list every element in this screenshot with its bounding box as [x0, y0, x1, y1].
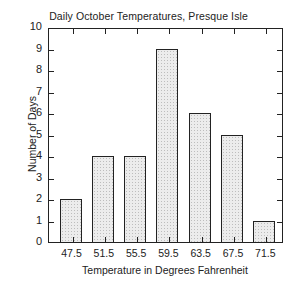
x-tick-label: 47.5: [55, 247, 89, 259]
bar: [92, 156, 114, 242]
y-tick-label: 9: [22, 42, 42, 54]
y-tick-right: [277, 222, 282, 223]
x-tick-top: [105, 29, 106, 34]
bar: [60, 199, 82, 242]
x-tick: [202, 237, 203, 242]
y-tick-label: 7: [22, 85, 42, 97]
bar: [253, 221, 275, 243]
x-tick: [137, 237, 138, 242]
x-tick-label: 51.5: [87, 247, 121, 259]
x-tick-top: [234, 29, 235, 34]
x-tick-top: [202, 29, 203, 34]
x-axis-label: Temperature in Degrees Fahrenheit: [0, 264, 297, 276]
y-tick-right: [277, 93, 282, 94]
y-tick-label: 5: [22, 128, 42, 140]
y-tick: [49, 179, 54, 180]
x-tick-label: 67.5: [216, 247, 250, 259]
y-tick-label: 6: [22, 106, 42, 118]
x-tick-label: 71.5: [248, 247, 282, 259]
x-tick-top: [266, 29, 267, 34]
x-tick: [234, 237, 235, 242]
y-tick-label: 10: [22, 20, 42, 32]
y-tick-right: [277, 114, 282, 115]
chart-title: Daily October Temperatures, Presque Isle: [0, 10, 297, 22]
y-tick: [49, 50, 54, 51]
y-tick-label: 3: [22, 171, 42, 183]
y-tick: [49, 222, 54, 223]
y-tick: [49, 136, 54, 137]
y-tick-label: 8: [22, 63, 42, 75]
y-tick-label: 4: [22, 149, 42, 161]
x-tick-label: 59.5: [151, 247, 185, 259]
x-tick-label: 55.5: [119, 247, 153, 259]
x-tick: [169, 237, 170, 242]
y-tick-label: 0: [22, 235, 42, 247]
y-tick: [49, 114, 54, 115]
y-tick: [49, 93, 54, 94]
y-tick: [49, 71, 54, 72]
plot-area: [48, 28, 283, 243]
y-tick-label: 2: [22, 192, 42, 204]
x-tick: [266, 237, 267, 242]
x-tick-top: [137, 29, 138, 34]
y-tick-label: 1: [22, 214, 42, 226]
y-tick-right: [277, 200, 282, 201]
x-tick-label: 63.5: [184, 247, 218, 259]
y-tick-right: [277, 179, 282, 180]
y-tick: [49, 200, 54, 201]
x-tick: [105, 237, 106, 242]
bar: [156, 49, 178, 243]
y-tick-right: [277, 71, 282, 72]
x-tick: [73, 237, 74, 242]
y-tick-right: [277, 157, 282, 158]
bar: [189, 113, 211, 242]
y-tick-right: [277, 50, 282, 51]
y-tick: [49, 157, 54, 158]
bar: [221, 135, 243, 243]
bar: [124, 156, 146, 242]
x-tick-top: [73, 29, 74, 34]
x-tick-top: [169, 29, 170, 34]
y-tick-right: [277, 136, 282, 137]
